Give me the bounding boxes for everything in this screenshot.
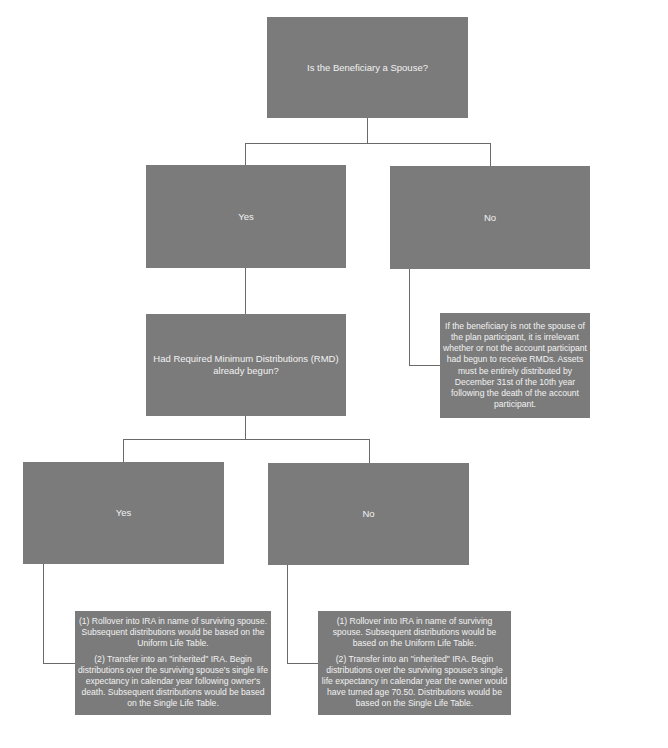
rmd-question-label: Had Required Minimum Distributions (RMD)… [152, 353, 340, 377]
rmd-no-label: No [362, 508, 374, 520]
connector-no-to-outcome [409, 365, 440, 366]
non-spouse-outcome-note: If the beneficiary is not the spouse of … [440, 313, 590, 418]
spouse-question-label: Is the Beneficiary a Spouse? [307, 62, 428, 74]
connector-yes-to-rmd [245, 268, 246, 314]
spouse-no-node: No [390, 166, 590, 269]
spouse-yes-node: Yes [146, 165, 346, 268]
rmd-yes-option-2: (2) Transfer into an "inherited" IRA. Be… [78, 654, 268, 710]
non-spouse-outcome-text: If the beneficiary is not the spouse of … [443, 321, 587, 410]
connector-rmd-yes-down [43, 564, 44, 663]
rmd-no-option-2: (2) Transfer into an "inherited" IRA. Be… [321, 654, 508, 710]
connector-rmd-no-down [287, 565, 288, 663]
rmd-no-outcome-note: (1) Rollover into IRA in name of survivi… [318, 611, 511, 715]
connector-rmd-yes-to-outcome [43, 663, 75, 664]
connector-to-no [490, 143, 491, 166]
rmd-question-node: Had Required Minimum Distributions (RMD)… [146, 314, 346, 416]
rmd-yes-label: Yes [116, 507, 132, 519]
connector-to-rmd-no [369, 439, 370, 463]
spouse-no-label: No [484, 212, 496, 224]
rmd-no-node: No [268, 463, 469, 565]
rmd-yes-option-1: (1) Rollover into IRA in name of survivi… [78, 616, 268, 650]
connector-rmd-down [245, 416, 246, 439]
rmd-yes-node: Yes [23, 462, 224, 564]
rmd-no-option-1: (1) Rollover into IRA in name of survivi… [321, 616, 508, 650]
connector-to-rmd-yes [123, 439, 124, 462]
spouse-question-node: Is the Beneficiary a Spouse? [267, 17, 468, 118]
connector-to-yes [245, 143, 246, 165]
connector-no-down [409, 269, 410, 365]
spouse-yes-label: Yes [238, 211, 254, 223]
connector-root-down [367, 118, 368, 143]
connector-rmd-no-to-outcome [287, 663, 318, 664]
rmd-yes-outcome-note: (1) Rollover into IRA in name of survivi… [75, 611, 271, 715]
connector-level1-horizontal [245, 143, 491, 144]
connector-level2-horizontal [123, 439, 370, 440]
